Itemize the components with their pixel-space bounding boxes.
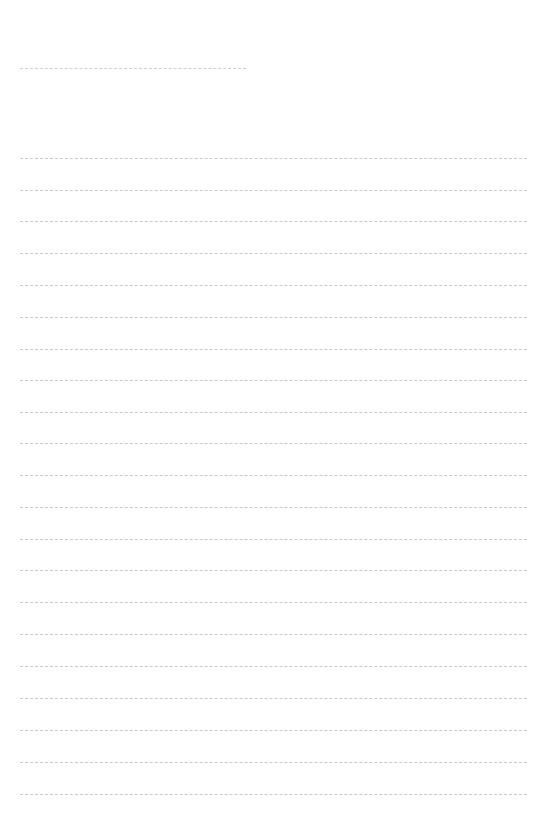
- ruled-line: [20, 794, 527, 795]
- ruled-line: [20, 698, 527, 699]
- ruled-line: [20, 158, 527, 159]
- ruled-line: [20, 666, 527, 667]
- ruled-line: [20, 190, 527, 191]
- ruled-line: [20, 317, 527, 318]
- ruled-line: [20, 221, 527, 222]
- title-line: [20, 68, 246, 69]
- ruled-line: [20, 730, 527, 731]
- ruled-line: [20, 412, 527, 413]
- ruled-page: [0, 0, 534, 829]
- ruled-line: [20, 285, 527, 286]
- ruled-line: [20, 634, 527, 635]
- ruled-line: [20, 475, 527, 476]
- ruled-line: [20, 253, 527, 254]
- ruled-line: [20, 570, 527, 571]
- ruled-line: [20, 539, 527, 540]
- ruled-line: [20, 349, 527, 350]
- ruled-line: [20, 602, 527, 603]
- ruled-line: [20, 507, 527, 508]
- ruled-line: [20, 380, 527, 381]
- ruled-line: [20, 443, 527, 444]
- ruled-line: [20, 762, 527, 763]
